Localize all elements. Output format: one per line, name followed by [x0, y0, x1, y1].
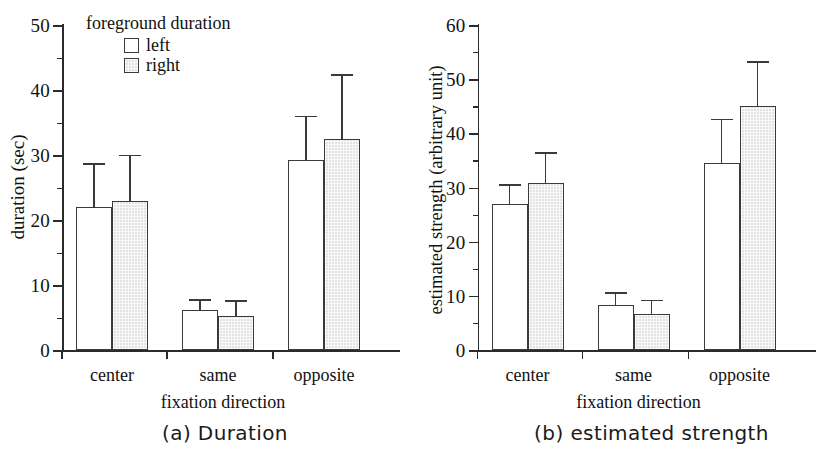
y-tick-label: 50 — [426, 70, 466, 89]
chart-panel-a: duration (sec) 01020304050centersameoppo… — [0, 0, 420, 464]
legend-item-right: right — [124, 56, 230, 74]
x-tick-mark — [166, 350, 168, 359]
error-bar-stem — [341, 76, 343, 139]
error-bar-cap — [83, 163, 105, 165]
panel-caption-a: (a) Duration — [162, 421, 288, 445]
y-tick-minor — [473, 215, 478, 216]
x-tick-label-same: same — [615, 365, 652, 386]
x-axis-label-a: fixation direction — [161, 392, 285, 413]
y-tick-label: 10 — [426, 286, 466, 305]
legend-label-right: right — [146, 56, 180, 74]
bar-opposite-right — [740, 106, 776, 350]
legend-label-left: left — [146, 36, 170, 54]
y-tick-minor — [473, 323, 478, 324]
y-tick-major — [469, 25, 478, 27]
y-tick-minor — [473, 160, 478, 161]
error-bar-stem — [129, 156, 131, 200]
error-bar-cap — [189, 299, 211, 301]
error-bar-cap — [499, 184, 521, 186]
bar-opposite-left — [704, 163, 740, 350]
x-tick-mark-origin — [61, 350, 63, 359]
y-tick-minor — [473, 52, 478, 53]
bar-same-right — [634, 314, 670, 350]
error-bar-cap — [331, 74, 353, 76]
error-bar-cap — [295, 116, 317, 118]
y-tick-major — [53, 155, 62, 157]
bar-same-left — [598, 305, 634, 351]
y-tick-minor — [57, 253, 62, 254]
y-tick-minor — [57, 318, 62, 319]
y-tick-label: 30 — [426, 178, 466, 197]
x-tick-label-opposite: opposite — [294, 365, 355, 386]
error-bar-cap — [225, 300, 247, 302]
figure: duration (sec) 01020304050centersameoppo… — [0, 0, 839, 464]
x-tick-mark-origin — [477, 350, 479, 359]
legend-item-left: left — [124, 36, 230, 54]
x-tick-label-same: same — [200, 365, 237, 386]
y-axis-line-a — [62, 24, 64, 351]
legend-a: foreground duration left right — [86, 13, 230, 74]
y-tick-major — [53, 285, 62, 287]
panel-caption-b: (b) estimated strength — [534, 421, 769, 445]
error-bar-stem — [235, 302, 237, 316]
error-bar-stem — [721, 120, 723, 163]
x-axis-line-a — [56, 350, 400, 352]
y-tick-minor — [473, 106, 478, 107]
x-tick-mark — [688, 350, 690, 359]
y-tick-major — [469, 79, 478, 81]
y-tick-label: 0 — [10, 341, 50, 360]
error-bar-cap — [641, 300, 663, 302]
bar-center-left — [492, 204, 528, 350]
error-bar-stem — [651, 301, 653, 313]
error-bar-cap — [535, 152, 557, 154]
legend-swatch-left-icon — [124, 38, 139, 53]
chart-panel-b: estimated strength (arbitrary unit) 0102… — [420, 0, 839, 464]
y-tick-label: 40 — [426, 124, 466, 143]
x-axis-line-b — [472, 350, 816, 352]
x-axis-label-b: fixation direction — [576, 392, 700, 413]
y-tick-minor — [57, 123, 62, 124]
bar-center-right — [528, 183, 564, 350]
y-tick-label: 10 — [10, 276, 50, 295]
y-tick-label: 20 — [10, 211, 50, 230]
bar-center-right — [112, 201, 148, 351]
y-axis-line-b — [478, 24, 480, 351]
y-tick-minor — [473, 269, 478, 270]
x-tick-mark — [582, 350, 584, 359]
y-tick-major — [53, 90, 62, 92]
bar-opposite-left — [288, 160, 324, 350]
error-bar-stem — [545, 154, 547, 183]
plot-area-b: 0102030405060centersameopposite — [478, 25, 808, 350]
x-tick-label-center: center — [506, 365, 550, 386]
error-bar-cap — [711, 119, 733, 121]
error-bar-cap — [605, 292, 627, 294]
y-tick-major — [469, 133, 478, 135]
y-tick-label: 30 — [10, 146, 50, 165]
error-bar-stem — [305, 117, 307, 160]
error-bar-stem — [757, 63, 759, 106]
y-tick-major — [53, 25, 62, 27]
y-tick-major — [469, 188, 478, 190]
legend-swatch-right-icon — [124, 58, 139, 73]
y-tick-major — [469, 296, 478, 298]
error-bar-stem — [199, 301, 201, 310]
error-bar-cap — [747, 61, 769, 63]
error-bar-stem — [93, 165, 95, 207]
error-bar-stem — [615, 294, 617, 305]
x-tick-label-opposite: opposite — [709, 365, 770, 386]
y-tick-minor — [57, 188, 62, 189]
y-tick-label: 60 — [426, 16, 466, 35]
y-tick-major — [53, 220, 62, 222]
y-tick-label: 50 — [10, 16, 50, 35]
error-bar-cap — [119, 155, 141, 157]
y-tick-label: 20 — [426, 232, 466, 251]
bar-same-left — [182, 310, 218, 350]
x-tick-label-center: center — [90, 365, 134, 386]
y-tick-label: 0 — [426, 341, 466, 360]
y-tick-label: 40 — [10, 81, 50, 100]
bar-center-left — [76, 207, 112, 350]
bar-same-right — [218, 316, 254, 350]
x-tick-mark — [272, 350, 274, 359]
bar-opposite-right — [324, 139, 360, 350]
y-tick-minor — [57, 58, 62, 59]
